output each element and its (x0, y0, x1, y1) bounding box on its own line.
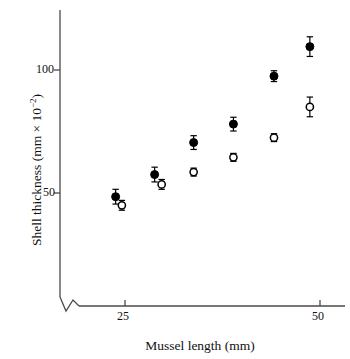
y-axis-label-close: ) (29, 94, 44, 99)
filled-circles-point (112, 189, 120, 204)
open-circles-point (230, 153, 237, 161)
filled-circle-marker (306, 43, 314, 51)
filled-circle-marker (151, 171, 159, 179)
filled-circles-point (190, 136, 198, 150)
axis-break-zigzag-icon (60, 297, 79, 311)
y-axis-label: Shell thickness (mm × 10−2) (29, 55, 45, 285)
open-circle-marker (230, 154, 237, 161)
open-circle-marker (306, 103, 313, 110)
open-circle-marker (158, 181, 165, 188)
filled-circles-point (306, 37, 314, 57)
filled-circles-point (270, 71, 278, 82)
chart-axes (54, 10, 345, 311)
data-points-group (112, 37, 314, 210)
filled-circles-point (151, 167, 159, 182)
open-circles-point (190, 168, 197, 176)
open-circles-point (118, 200, 125, 210)
x-axis-label: Mussel length (mm) (90, 338, 310, 354)
open-circles-point (306, 97, 313, 117)
filled-circle-marker (190, 139, 198, 147)
x-tick-label-25: 25 (117, 309, 129, 324)
plot-area (0, 0, 350, 359)
y-tick-label-50: 50 (43, 185, 55, 200)
open-circle-marker (190, 168, 197, 175)
filled-circle-marker (112, 193, 120, 201)
y-axis-label-base: Shell thickness (mm × 10 (29, 108, 44, 246)
open-circles-point (158, 179, 165, 189)
filled-circle-marker (229, 120, 237, 128)
x-tick-label-50: 50 (312, 309, 324, 324)
y-axis-label-exponent: −2 (28, 98, 38, 108)
shell-thickness-scatter-chart: Shell thickness (mm × 10−2) Mussel lengt… (0, 0, 350, 359)
filled-circles-point (229, 117, 237, 131)
open-circle-marker (270, 134, 277, 141)
open-circles-point (270, 134, 277, 142)
open-circle-marker (118, 202, 125, 209)
y-tick-label-100: 100 (36, 62, 54, 77)
filled-circle-marker (270, 72, 278, 80)
